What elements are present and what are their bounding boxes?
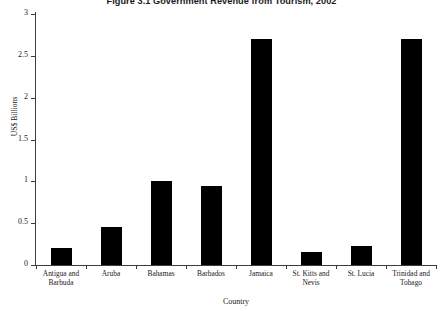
y-axis-tick-label: 2.5: [18, 50, 28, 60]
x-axis-tick: [236, 265, 237, 269]
chart-title: Figure 3.1 Government Revenue from Touri…: [0, 0, 443, 6]
x-axis-category-label: Jamaica: [236, 270, 286, 279]
x-axis-category-label: Antigua and Barbuda: [36, 270, 86, 287]
bar: [51, 248, 72, 265]
x-axis-tick: [386, 265, 387, 269]
plot-area: [36, 14, 436, 265]
bar: [151, 181, 172, 265]
bar: [101, 227, 122, 265]
chart-figure: Figure 3.1 Government Revenue from Touri…: [0, 0, 443, 311]
x-axis-category-label: Bahamas: [136, 270, 186, 279]
x-axis-category-label: Aruba: [86, 270, 136, 279]
y-axis-title: US$ Billions: [10, 77, 19, 157]
x-axis-tick: [36, 265, 37, 269]
x-axis-tick: [286, 265, 287, 269]
x-axis-tick: [436, 265, 437, 269]
x-axis-category-label: St. Kitts and Nevis: [286, 270, 336, 287]
x-axis-tick: [86, 265, 87, 269]
bar: [251, 39, 272, 265]
y-axis-tick-label: 0: [24, 259, 28, 269]
x-axis-category-label: St. Lucia: [336, 270, 386, 279]
bar: [401, 39, 422, 265]
y-axis-tick-label: 2: [24, 92, 28, 102]
bar: [301, 252, 322, 265]
x-axis-category-label: Trinidad and Tobago: [386, 270, 436, 287]
y-axis-tick-label: 0.5: [18, 217, 28, 227]
y-axis-tick-label: 3: [24, 8, 28, 18]
x-axis-title: Country: [36, 297, 436, 306]
y-axis-tick-label: 1: [24, 175, 28, 185]
y-axis-tick-label: 1.5: [18, 134, 28, 144]
x-axis-category-label: Barbados: [186, 270, 236, 279]
x-axis-tick: [186, 265, 187, 269]
x-axis-tick: [136, 265, 137, 269]
bar: [351, 246, 372, 265]
x-axis-tick: [336, 265, 337, 269]
bar: [201, 186, 222, 265]
